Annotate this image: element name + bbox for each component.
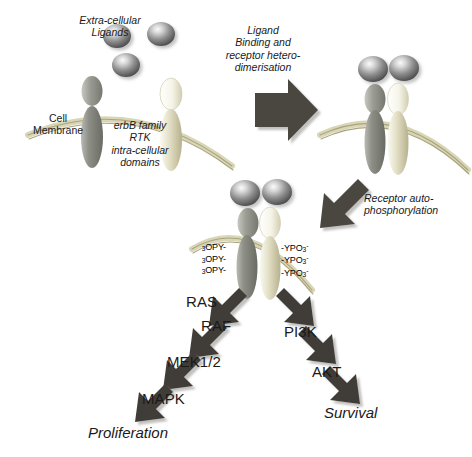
phospho-tan-extracellular-domain: [260, 207, 281, 239]
phospho-label-left-1: 3OPY-: [186, 242, 226, 252]
phospho-labels-right: -YPO3- -YPO3- -YPO3-: [281, 242, 325, 279]
phospho-label-right-2: -YPO3-: [281, 254, 325, 265]
receptor-autophosphorylation-step-label: Receptor auto- phosphorylation: [364, 192, 468, 217]
outcome-label-proliferation: Proliferation: [88, 424, 168, 442]
phospho-bound-ligand-right: [262, 179, 292, 205]
cascade-label-raf: RAF: [201, 317, 231, 335]
cascade-label-pi3k: PI3K: [284, 323, 317, 341]
arrow-to-pi3k: [276, 288, 314, 326]
cascade-label-akt: AKT: [312, 363, 341, 381]
receptor-tan-extracellular-domain: [160, 78, 182, 110]
arrow-dimerisation-group: [255, 79, 318, 141]
cell-membrane-label: Cell Membrane: [22, 112, 94, 137]
cascade-label-mek1-2: MEK1/2: [167, 353, 221, 371]
bound-ligand-left: [358, 56, 388, 82]
stage2-dimer-complex: [358, 55, 419, 175]
pathway-diagram: Extra-cellular Ligands Cell Membrane erb…: [0, 0, 472, 457]
phospho-label-right-1: -YPO3-: [281, 242, 325, 253]
dimer-grey-extracellular-domain: [365, 84, 386, 114]
ligand-binding-step-label: Ligand Binding and receptor hetero- dime…: [207, 24, 319, 74]
pi3k-cascade-arrows: [276, 288, 360, 404]
phospho-grey-extracellular-domain: [238, 208, 259, 238]
phospho-label-left-3: 3OPY-: [186, 265, 226, 275]
phospho-tan-intracellular-domain: [260, 236, 281, 300]
cascade-label-ras: RAS: [186, 293, 217, 311]
dimer-grey-intracellular-domain: [365, 110, 386, 174]
right-arrow-dimerisation-icon: [255, 79, 318, 141]
arrow-phosphorylation-group: [320, 179, 369, 228]
phospho-bound-ligand-left: [230, 180, 260, 206]
outcome-label-survival: Survival: [324, 404, 377, 422]
phospho-labels-left: 3OPY- 3OPY- 3OPY-: [186, 242, 226, 277]
receptor-grey-extracellular-domain: [82, 76, 103, 106]
phospho-label-left-2: 3OPY-: [186, 254, 226, 264]
phospho-label-right-3: -YPO3-: [281, 267, 325, 278]
dimer-tan-extracellular-domain: [388, 83, 409, 115]
ligand-3: [112, 53, 140, 77]
extracellular-ligands-label: Extra-cellular Ligands: [52, 14, 168, 39]
erbb-receptor-domains-label: erbB family RTK intra-cellular domains: [96, 119, 184, 169]
down-left-arrow-phosphorylation-icon: [320, 179, 369, 228]
dimer-tan-intracellular-domain: [388, 111, 409, 175]
cascade-label-mapk: MAPK: [142, 390, 185, 408]
bound-ligand-right: [389, 55, 419, 81]
